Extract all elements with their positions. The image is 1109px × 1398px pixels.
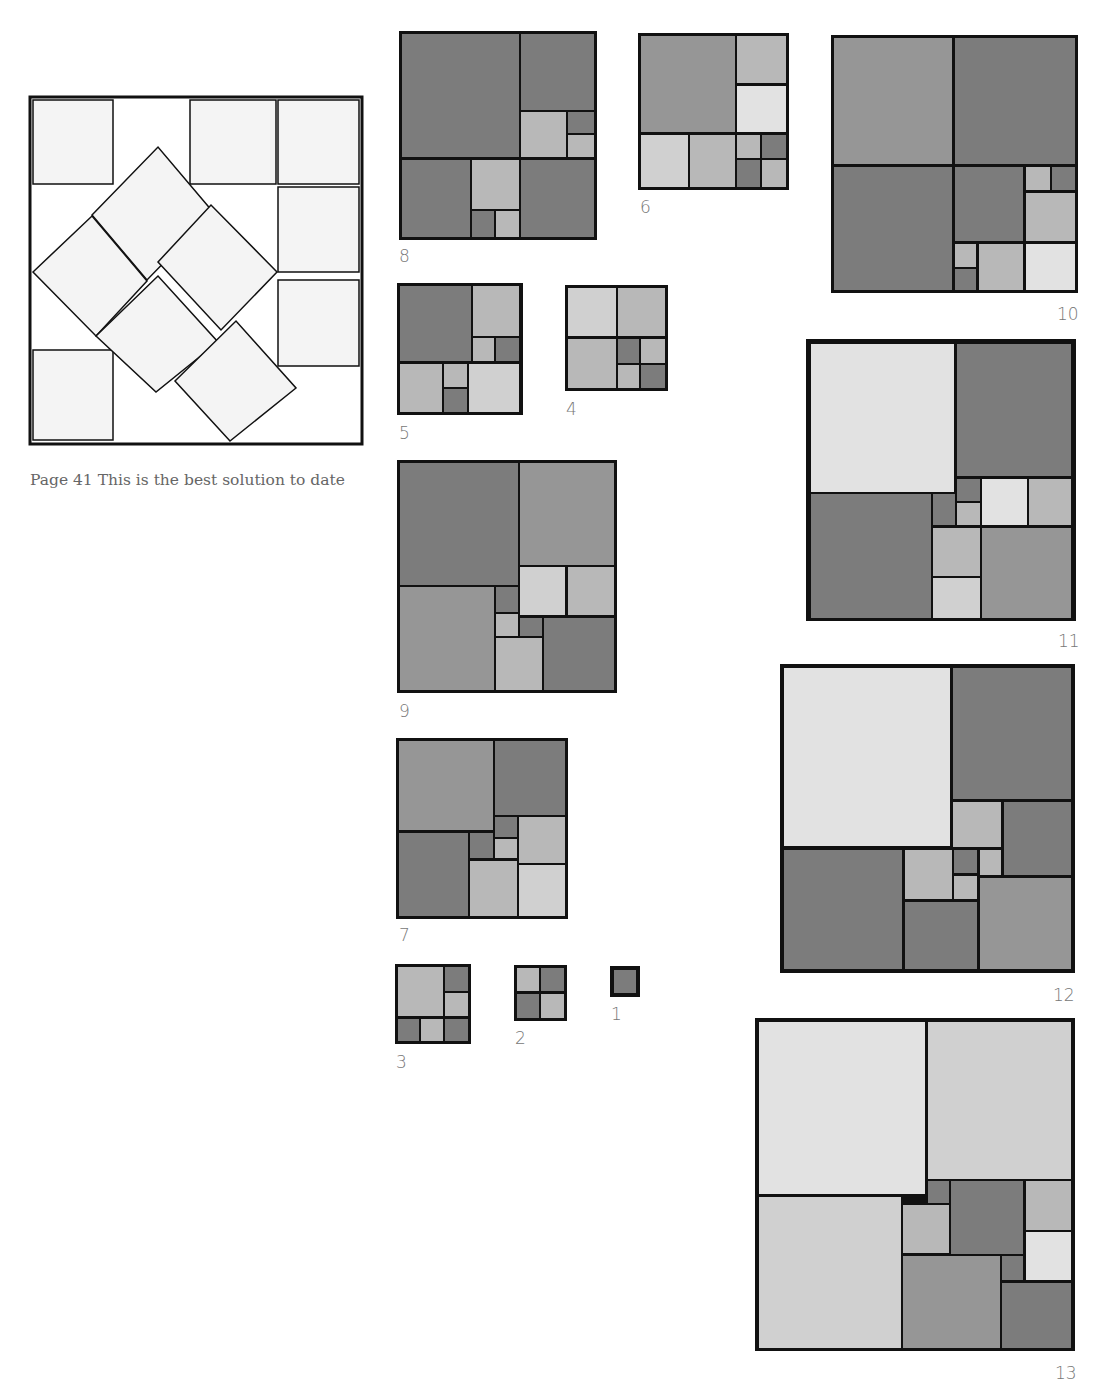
tile-dark (445, 1019, 468, 1041)
tile-dark (641, 365, 665, 388)
tile-pale (928, 1022, 1071, 1179)
tile-dark (398, 1019, 419, 1041)
tile-light (496, 638, 542, 690)
tile-dark (955, 269, 976, 290)
tile-dark (614, 970, 636, 993)
tile-light (496, 211, 519, 237)
packing-figure-12 (780, 664, 1075, 973)
tile-light (641, 339, 665, 363)
tile-dark (445, 967, 468, 991)
tile-dark (1052, 167, 1075, 190)
tile-mid (980, 878, 1071, 969)
tile-light (737, 135, 760, 158)
tile-light (933, 528, 980, 576)
tile-light (568, 567, 614, 615)
packing-figure-5 (397, 283, 523, 415)
tile-dark (905, 902, 977, 969)
tile-light (737, 36, 786, 83)
tile-mid (400, 587, 494, 690)
tile-paler (1026, 244, 1075, 290)
tile-light (1026, 167, 1050, 190)
tile-paler (784, 668, 950, 846)
tile-light (444, 364, 467, 387)
tile-mid (520, 463, 614, 565)
tile-light (495, 839, 517, 858)
tile-light (1026, 1181, 1071, 1230)
tile-dark (521, 34, 594, 110)
tile-dark (402, 34, 519, 157)
packing-figure-2 (514, 965, 567, 1021)
tile-light (690, 135, 735, 187)
tile-dark (928, 1181, 949, 1203)
tile-light (618, 365, 639, 388)
tile-light (519, 817, 565, 863)
figure-number-label: 10 (1057, 306, 1079, 323)
tile-light (472, 160, 519, 209)
figure-caption: Page 41 This is the best solution to dat… (30, 470, 350, 491)
tile-dark (470, 833, 493, 858)
tile-light (1029, 479, 1071, 525)
tile-pale (759, 1197, 901, 1348)
unit-square (33, 100, 113, 184)
figure-number-label: 13 (1055, 1365, 1077, 1382)
figure-number-label: 5 (399, 425, 410, 442)
figure-number-label: 8 (399, 248, 410, 265)
tile-paler (982, 479, 1027, 525)
tile-light (541, 994, 564, 1018)
packing-figure-3 (395, 964, 471, 1044)
tile-light (905, 850, 952, 899)
packing-figure-13 (755, 1018, 1075, 1351)
tile-dark (1002, 1283, 1071, 1348)
unit-square (278, 100, 359, 184)
figure-number-label: 4 (566, 401, 577, 418)
tile-dark (517, 994, 539, 1018)
tile-light (953, 802, 1001, 847)
packing-figure-11 (806, 339, 1076, 621)
tile-dark (400, 286, 471, 361)
tile-light (421, 1019, 443, 1041)
tile-light (618, 288, 665, 336)
tile-dark (618, 339, 639, 363)
tile-light (470, 861, 517, 916)
tile-light (762, 160, 786, 187)
tile-light (903, 1205, 949, 1253)
tile-dark (400, 463, 518, 585)
tile-dark (541, 968, 564, 991)
tile-light (1026, 193, 1075, 241)
tile-dark (955, 38, 1075, 164)
tile-pale (933, 578, 980, 618)
tile-mid (641, 36, 735, 132)
tile-dark (762, 135, 786, 158)
tile-dark (957, 344, 1071, 476)
tile-mid (903, 1256, 1000, 1348)
tile-paler (1026, 1232, 1071, 1280)
tile-dark (1002, 1256, 1023, 1280)
tile-dark (1004, 802, 1071, 875)
tile-paler (811, 344, 954, 492)
tile-mid (982, 528, 1071, 618)
tile-dark (957, 479, 980, 501)
tile-dark (834, 167, 952, 290)
tile-light (957, 503, 980, 525)
unit-square (278, 280, 359, 366)
tile-dark (955, 167, 1023, 241)
tile-dark (544, 618, 614, 690)
tile-light (568, 135, 594, 157)
tile-light (521, 112, 566, 157)
tile-light (400, 364, 442, 412)
tile-mid (399, 741, 493, 830)
tile-pale (641, 135, 688, 187)
tile-light (496, 614, 518, 636)
tile-dark (737, 160, 760, 187)
unit-square (190, 100, 276, 184)
tile-pale (469, 364, 519, 412)
tile-paler (737, 86, 786, 132)
tile-dark (444, 389, 467, 412)
tile-pale (568, 288, 616, 336)
tile-light (980, 850, 1001, 875)
tile-light (955, 244, 976, 267)
tile-light (473, 338, 494, 361)
tile-light (568, 339, 616, 388)
tile-dark (521, 160, 594, 237)
tile-dark (520, 618, 542, 636)
